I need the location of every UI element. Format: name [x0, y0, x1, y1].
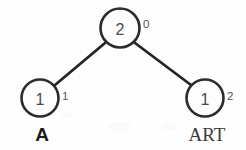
tree-canvas: 2 0 1 1 A 1 2 ART	[0, 0, 246, 150]
node-left-leaf-label: A	[35, 124, 49, 145]
node-root-value: 2	[116, 21, 125, 38]
node-root-index: 0	[143, 18, 149, 30]
binary-tree-figure: 2 0 1 1 A 1 2 ART	[0, 0, 246, 150]
edge-root-to-left-leaf	[55, 43, 105, 85]
edge-root-to-right-leaf	[135, 43, 191, 85]
node-left-leaf-value: 1	[36, 91, 45, 108]
node-right-leaf-index: 2	[227, 90, 233, 102]
node-right-leaf-label: ART	[189, 124, 226, 145]
node-left-leaf-index: 1	[62, 90, 68, 102]
node-right-leaf-value: 1	[201, 91, 210, 108]
